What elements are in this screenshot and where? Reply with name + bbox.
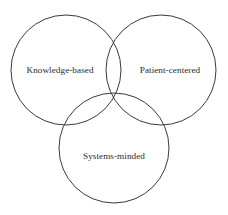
venn-diagram: Knowledge-based Patient-centered Systems… xyxy=(0,0,228,215)
venn-diagram-canvas: Knowledge-based Patient-centered Systems… xyxy=(0,0,228,215)
label-systems-minded: Systems-minded xyxy=(83,151,145,161)
label-knowledge-based: Knowledge-based xyxy=(26,65,93,75)
label-patient-centered: Patient-centered xyxy=(140,65,201,75)
circle-systems-minded xyxy=(59,93,169,203)
